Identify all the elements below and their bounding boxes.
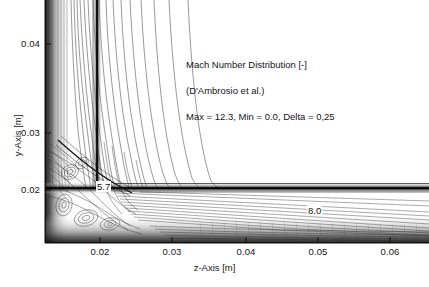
contour-plot-figure: 0.04 0.03 0.02 0.02 0.03 0.04 0.05 0.06 … <box>0 0 429 287</box>
x-tick-label-1: 0.03 <box>150 246 194 257</box>
x-tick-label-2: 0.04 <box>224 246 268 257</box>
annotation-line-reference: (D'Ambrosio et al.) <box>186 84 386 97</box>
y-tick-label-0: 0.04 <box>2 38 40 49</box>
y-axis-title: y-Axis [m] <box>12 101 23 171</box>
x-tick-label-4: 0.06 <box>368 246 412 257</box>
annotation-block: Mach Number Distribution [-] (D'Ambrosio… <box>186 58 386 136</box>
annotation-line-range: Max = 12.3, Min = 0.0, Delta = 0,25 <box>186 110 386 123</box>
x-axis-title: z-Axis [m] <box>0 262 429 273</box>
x-tick-label-3: 0.05 <box>296 246 340 257</box>
plot-canvas <box>0 0 429 287</box>
y-tick-label-2: 0.02 <box>2 184 40 195</box>
contour-label-8-0: 8.0 <box>307 205 322 216</box>
x-tick-label-0: 0.02 <box>78 246 122 257</box>
annotation-line-title: Mach Number Distribution [-] <box>186 58 386 71</box>
contour-label-5-7: 5.7 <box>96 181 111 192</box>
